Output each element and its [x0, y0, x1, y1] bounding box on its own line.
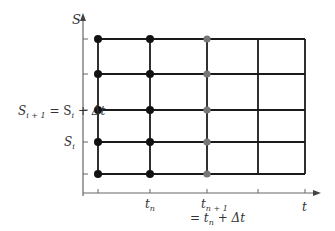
y-axis-label: S: [72, 12, 81, 27]
axes: [80, 13, 321, 196]
label-s-i: Si: [64, 135, 75, 151]
x-axis-label: t: [302, 200, 307, 214]
x-axis-arrow-icon: [313, 190, 321, 196]
grid-lines: [98, 39, 305, 174]
label-t-n-plus-1-equation: = tn + Δt: [190, 211, 245, 227]
finite-difference-grid-diagram: S t Si + 1 = Si + Δt Si tn tn + 1 = tn +…: [0, 0, 335, 231]
label-t-n: tn: [145, 197, 155, 213]
label-s-i-plus-1: Si + 1 = Si + Δt: [18, 104, 105, 120]
